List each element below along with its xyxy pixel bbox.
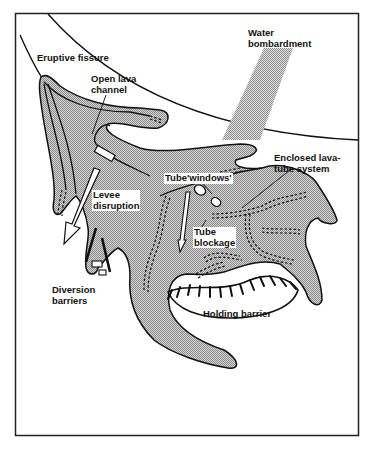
label-diversion-barriers-line1: Diversion xyxy=(52,285,95,296)
label-enclosed-tube-line2: tube system xyxy=(274,164,341,175)
label-eruptive-fissure-text: Eruptive fissure xyxy=(37,52,109,63)
label-water-bombardment: Water bombardment xyxy=(248,28,311,49)
label-levee-disruption-line1: Levee xyxy=(93,190,139,201)
label-enclosed-tube-line1: Enclosed lava- xyxy=(274,153,341,164)
label-water-bombardment-line1: Water xyxy=(248,28,311,39)
label-enclosed-lava-tube: Enclosed lava- tube system xyxy=(274,153,341,174)
label-open-lava-channel: Open lava channel xyxy=(91,74,136,95)
label-diversion-barriers-line2: barriers xyxy=(52,296,95,307)
label-water-bombardment-line2: bombardment xyxy=(248,39,311,50)
label-tube-blockage: Tube blockage xyxy=(193,227,236,248)
label-tube-blockage-line1: Tube xyxy=(194,227,235,238)
label-levee-disruption-line2: disruption xyxy=(93,201,139,212)
label-open-lava-channel-line2: channel xyxy=(91,85,136,96)
label-diversion-barriers: Diversion barriers xyxy=(52,285,95,306)
label-open-lava-channel-line1: Open lava xyxy=(91,74,136,85)
lava-flow-diagram xyxy=(0,0,373,449)
label-tube-windows: Tube'windows' xyxy=(164,173,233,184)
label-holding-barrier: Holding barrier xyxy=(203,309,271,320)
label-eruptive-fissure: Eruptive fissure xyxy=(37,53,109,64)
label-holding-barrier-text: Holding barrier xyxy=(203,308,271,319)
label-levee-disruption: Levee disruption xyxy=(92,190,140,211)
label-tube-blockage-line2: blockage xyxy=(194,238,235,249)
label-tube-windows-text: Tube'windows' xyxy=(165,172,232,183)
